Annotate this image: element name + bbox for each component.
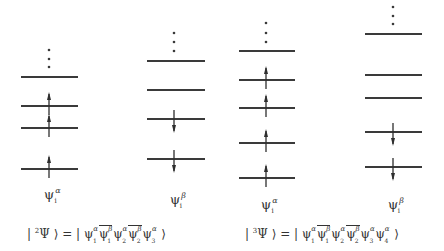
- ellipsis-dot: [173, 50, 176, 53]
- spin-orbital-term-alpha: ψα3: [142, 228, 155, 242]
- orbital-column-beta: [147, 32, 205, 173]
- orbital-column-alpha: [21, 49, 78, 178]
- spin-orbital-term-alpha: ψα1: [84, 228, 97, 242]
- arrowhead-up-icon: [264, 94, 268, 102]
- orbital-column-alpha: [239, 22, 295, 187]
- spin-orbital-term-beta: ψβ2: [128, 228, 140, 242]
- ellipsis-dot: [265, 32, 268, 35]
- spin-orbital-term-beta: ψβ1: [99, 228, 111, 242]
- ellipsis-dot: [265, 41, 268, 44]
- spin-orbital-term-alpha: ψα1: [302, 228, 315, 242]
- orbital-label-alpha: ψαi: [261, 198, 274, 211]
- arrowhead-up-icon: [264, 66, 268, 74]
- arrowhead-up-icon: [47, 92, 51, 100]
- spin-orbital-term-beta: ψβ1: [317, 228, 329, 242]
- triplet-equation: | 3Ψ ⟩ = | ψα1ψβ1ψα2ψβ2ψα3ψα4 ⟩: [245, 228, 399, 242]
- spin-orbital-term-alpha: ψα3: [360, 228, 373, 242]
- ellipsis-dot: [173, 41, 176, 44]
- arrowhead-down-icon: [391, 173, 395, 181]
- arrowhead-down-icon: [172, 165, 176, 173]
- orbital-label-beta: ψβi: [388, 198, 400, 211]
- arrowhead-up-icon: [264, 164, 268, 172]
- doublet-equation: | 2Ψ ⟩ = | ψα1ψβ1ψα2ψβ2ψα3 ⟩: [27, 228, 166, 242]
- spin-orbital-term-alpha: ψα2: [113, 228, 126, 242]
- ellipsis-dot: [392, 15, 395, 18]
- arrowhead-up-icon: [47, 155, 51, 163]
- ellipsis-dot: [265, 22, 268, 25]
- ellipsis-dot: [173, 32, 176, 35]
- arrowhead-up-icon: [264, 129, 268, 137]
- arrowhead-down-icon: [391, 138, 395, 146]
- ellipsis-dot: [392, 23, 395, 26]
- ellipsis-dot: [48, 58, 51, 61]
- orbital-column-beta: [365, 6, 422, 181]
- arrowhead-up-icon: [47, 114, 51, 122]
- ellipsis-dot: [392, 6, 395, 9]
- arrowhead-down-icon: [172, 125, 176, 133]
- orbital-label-beta: ψβi: [170, 193, 182, 206]
- spin-orbital-term-alpha: ψα4: [375, 228, 388, 242]
- spin-orbital-term-alpha: ψα2: [331, 228, 344, 242]
- ellipsis-dot: [48, 49, 51, 52]
- spin-orbital-term-beta: ψβ2: [346, 228, 358, 242]
- ellipsis-dot: [48, 66, 51, 69]
- orbital-diagram: [0, 0, 444, 251]
- orbital-label-alpha: ψαi: [44, 188, 57, 201]
